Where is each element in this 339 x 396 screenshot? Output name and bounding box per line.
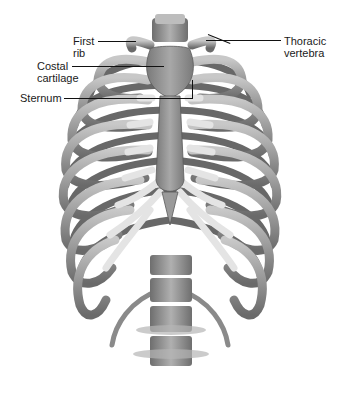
leader-thoracic-vertebra bbox=[206, 40, 281, 41]
leader-sternum bbox=[64, 98, 192, 99]
label-first-rib: First rib bbox=[73, 35, 94, 59]
leader-sternum-vertical bbox=[192, 80, 193, 99]
leader-first-rib bbox=[98, 41, 136, 42]
label-sternum: Sternum bbox=[20, 92, 62, 104]
label-thoracic-vertebra: Thoracic vertebra bbox=[284, 35, 326, 59]
leader-costal-cartilage bbox=[72, 66, 164, 67]
label-costal-cartilage: Costal cartilage bbox=[37, 60, 79, 84]
